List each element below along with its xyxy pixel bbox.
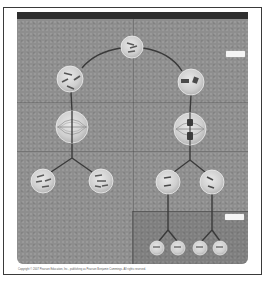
gamete-cell-2	[171, 241, 185, 255]
branch-gamete-2	[168, 230, 177, 241]
meiosis-daughter-cell-1	[156, 170, 180, 194]
gamete-cell-1	[150, 241, 164, 255]
mitosis-prophase-cell	[57, 66, 83, 92]
branch-mitosis-left	[51, 143, 72, 172]
branch-gamete-1	[159, 194, 168, 241]
gamete-cell-3	[193, 241, 207, 255]
line-meiosis-1	[190, 95, 191, 113]
parent-cell	[121, 36, 143, 58]
mitosis-daughter-cell-2	[89, 169, 113, 193]
branch-meiosis-left	[174, 145, 190, 172]
mitosis-daughter-cell-1	[31, 169, 55, 193]
arc-to-meiosis	[143, 48, 182, 71]
line-mitosis-1	[71, 92, 72, 111]
mitosis-metaphase-cell	[56, 111, 88, 143]
branch-gamete-4	[212, 230, 220, 241]
meiosis-prophase-cell	[178, 69, 204, 95]
branch-mitosis-right	[72, 158, 92, 172]
branch-meiosis-right	[190, 160, 205, 172]
gamete-cell-4	[213, 241, 227, 255]
meiosis-daughter-cell-2	[200, 170, 224, 194]
meiosis-metaphase-cell	[174, 113, 206, 145]
arc-to-mitosis	[82, 48, 121, 68]
branch-gamete-3	[202, 194, 212, 241]
cell-division-diagram	[0, 0, 276, 289]
